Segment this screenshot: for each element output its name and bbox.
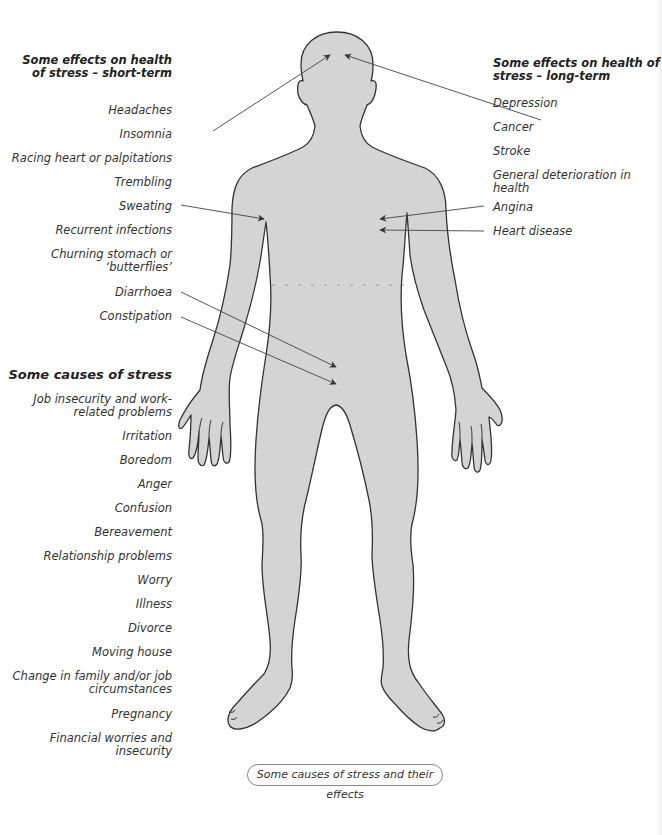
cause-item-irritation: Irritation [122, 430, 172, 443]
cause-item-illness: Illness [136, 598, 172, 611]
general-deterioration-line2: health [493, 182, 631, 195]
long-term-heading-line2: stress – long-term [493, 70, 660, 83]
cause-item-pregnancy: Pregnancy [111, 708, 172, 721]
long-term-item-stroke: Stroke [493, 145, 530, 158]
short-term-item-insomnia: Insomnia [120, 128, 172, 141]
cause-item-bereavement: Bereavement [94, 526, 172, 539]
financial-worries-line2: insecurity [50, 745, 172, 758]
long-term-item-cancer: Cancer [493, 121, 534, 134]
cause-item-relationship-problems: Relationship problems [43, 550, 172, 563]
short-term-item-constipation: Constipation [100, 310, 172, 323]
family-job-change-line2: circumstances [13, 683, 172, 696]
short-term-heading-line2: of stress – short-term [22, 67, 172, 80]
cause-item-divorce: Divorce [128, 622, 172, 635]
short-term-item-headaches: Headaches [108, 104, 172, 117]
short-term-item-recurrent-infections: Recurrent infections [55, 224, 172, 237]
churning-stomach-line2: ‘butterflies’ [51, 261, 172, 274]
short-term-item-diarrhoea: Diarrhoea [115, 286, 172, 299]
long-term-item-heart-disease: Heart disease [493, 225, 572, 238]
cause-item-worry: Worry [137, 574, 172, 587]
figure-caption: Some causes of stress and their effects [247, 764, 443, 786]
short-term-item-churning-stomach: Churning stomach or ‘butterflies’ [51, 248, 172, 274]
causes-heading: Some causes of stress [8, 368, 172, 381]
cause-item-job-insecurity: Job insecurity and work- related problem… [33, 393, 172, 419]
finger-lines [199, 418, 482, 444]
cause-item-moving-house: Moving house [92, 646, 172, 659]
short-term-item-trembling: Trembling [115, 176, 172, 189]
cause-item-confusion: Confusion [115, 502, 172, 515]
long-term-item-depression: Depression [493, 97, 558, 110]
body-silhouette [179, 32, 502, 731]
long-term-item-general-deterioration: General deterioration in health [493, 169, 631, 195]
long-term-heading: Some effects on health of stress – long-… [493, 57, 660, 83]
cause-item-family-job-change: Change in family and/or job circumstance… [13, 670, 172, 696]
cause-item-boredom: Boredom [120, 454, 172, 467]
job-insecurity-line2: related problems [33, 406, 172, 419]
short-term-item-sweating: Sweating [119, 200, 172, 213]
long-term-item-angina: Angina [493, 201, 533, 214]
cause-item-anger: Anger [138, 478, 172, 491]
short-term-item-racing-heart: Racing heart or palpitations [12, 152, 172, 165]
cause-item-financial-worries: Financial worries and insecurity [50, 732, 172, 758]
short-term-heading: Some effects on health of stress – short… [22, 54, 172, 80]
